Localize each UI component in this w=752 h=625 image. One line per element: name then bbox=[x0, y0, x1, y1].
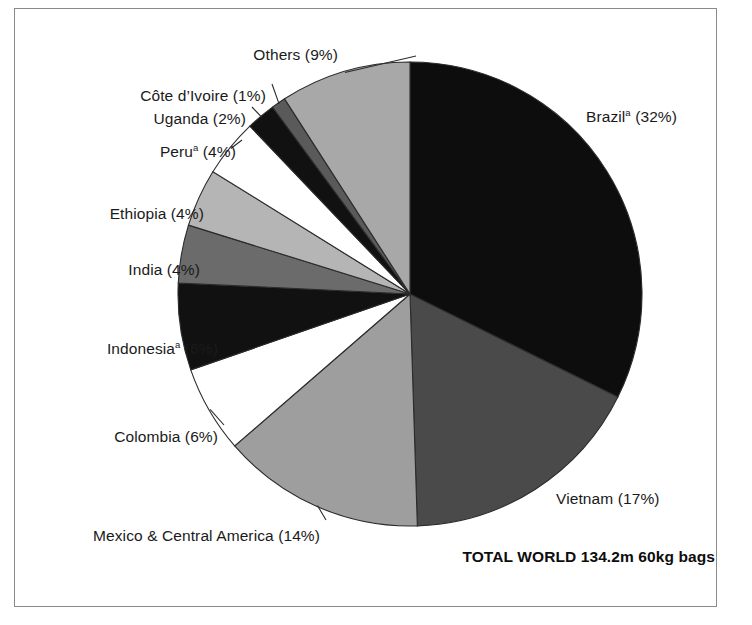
total-world-label: TOTAL WORLD 134.2m 60kg bags bbox=[462, 548, 715, 566]
pie-label-uganda: Uganda (2%) bbox=[154, 110, 246, 127]
pie-label-peru: Perua (4%) bbox=[160, 143, 236, 160]
pie-label-vietnam: Vietnam (17%) bbox=[556, 490, 660, 507]
pie-label-colombia: Colombia (6%) bbox=[114, 428, 218, 445]
pie-chart-figure: Brazila (32%)Vietnam (17%)Mexico & Centr… bbox=[0, 0, 752, 625]
pie-label-others: Others (9%) bbox=[253, 46, 338, 63]
pie-label-india: India (4%) bbox=[128, 261, 200, 278]
pie-label-indonesia: Indonesiaa (6%) bbox=[107, 340, 218, 357]
pie-label-ethiopia: Ethiopia (4%) bbox=[110, 205, 204, 222]
figure-border bbox=[14, 8, 717, 607]
pie-label-mexico-central-america: Mexico & Central America (14%) bbox=[93, 527, 320, 544]
pie-label-c-te-d-ivoire: Côte d’Ivoire (1%) bbox=[140, 87, 266, 104]
pie-label-brazil: Brazila (32%) bbox=[586, 108, 677, 125]
